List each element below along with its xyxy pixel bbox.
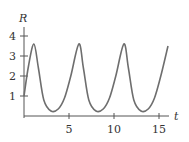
x-tick-label: 15 (152, 123, 166, 136)
y-axis-label: R (18, 12, 27, 25)
y-tick-label: 4 (9, 30, 16, 43)
x-axis-label: t (174, 110, 179, 123)
x-tick-label: 10 (107, 123, 121, 136)
y-tick-label: 1 (9, 90, 16, 103)
x-tick-label: 5 (66, 123, 73, 136)
y-tick-label: 2 (9, 70, 16, 83)
data-line-r (24, 44, 168, 112)
y-tick-label: 3 (9, 50, 16, 63)
chart: 51015 1234 R t (0, 0, 189, 142)
